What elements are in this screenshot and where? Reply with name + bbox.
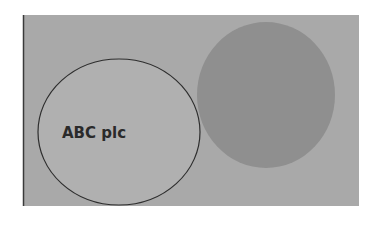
venn-diagram: ABC plc <box>0 0 377 225</box>
abc-plc-label: ABC plc <box>62 124 126 142</box>
diagram-stage: ABC plc <box>0 0 377 225</box>
other-entity-circle <box>197 22 335 168</box>
